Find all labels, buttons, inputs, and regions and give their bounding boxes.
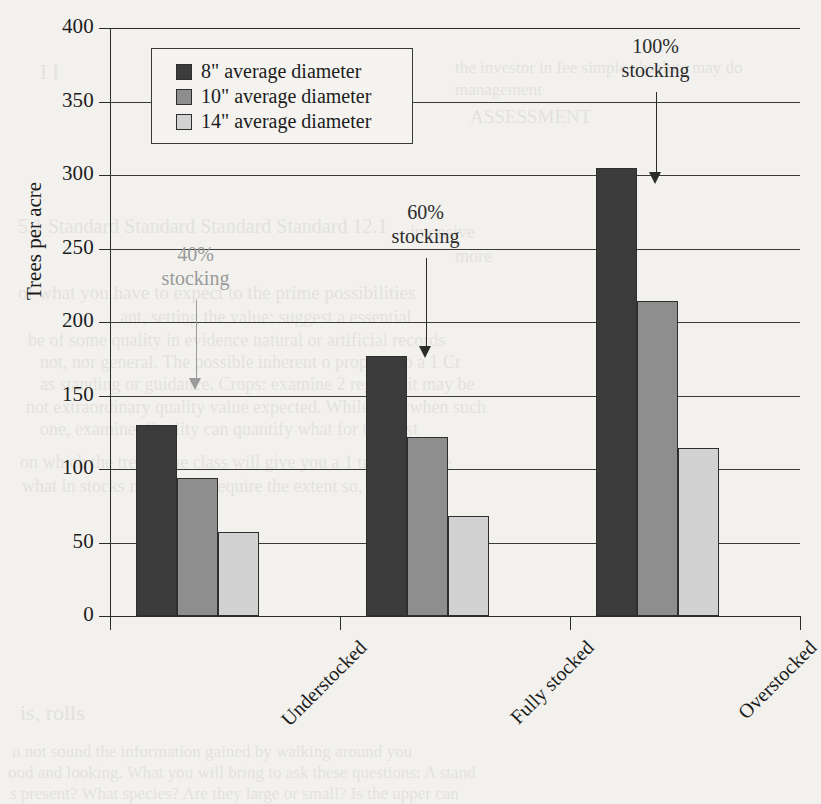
y-axis-tick <box>99 543 110 544</box>
y-axis-tick-label: 350 <box>0 88 94 113</box>
y-axis-tick <box>99 396 110 397</box>
y-axis-tick-label: 150 <box>0 382 94 407</box>
x-axis-tick-label: Overstocked <box>733 636 821 724</box>
y-axis-tick <box>99 175 110 176</box>
legend-swatch-icon <box>176 89 192 105</box>
legend-item: 10" average diameter <box>152 84 412 109</box>
legend: 8" average diameter 10" average diameter… <box>151 48 413 144</box>
bar <box>448 516 489 616</box>
stocking-annotation: 40%stocking <box>106 242 286 291</box>
y-axis-tick-label: 200 <box>0 308 94 333</box>
stocking-annotation: 100%stocking <box>566 34 746 83</box>
y-axis-tick-label: 250 <box>0 235 94 260</box>
stocking-annotation: 60%stocking <box>336 200 516 249</box>
y-axis-tick <box>99 322 110 323</box>
annotation-line-2: stocking <box>566 58 746 82</box>
y-axis-tick <box>99 28 110 29</box>
annotation-line-1: 100% <box>566 34 746 58</box>
y-axis-tick-label: 400 <box>0 14 94 39</box>
x-axis-tick <box>110 616 111 630</box>
gridline <box>110 175 800 176</box>
x-axis-tick <box>570 616 571 630</box>
bar <box>218 532 259 616</box>
y-axis-tick-label: 50 <box>0 529 94 554</box>
x-axis-tick-label: Fully stocked <box>505 636 598 729</box>
y-axis-tick <box>99 102 110 103</box>
bar <box>366 356 407 616</box>
x-axis-tick-label: Understocked <box>276 636 371 731</box>
gridline <box>110 322 800 323</box>
bar <box>637 301 678 616</box>
annotation-line-1: 60% <box>336 200 516 224</box>
x-axis-tick <box>340 616 341 630</box>
bar <box>678 448 719 616</box>
y-axis-tick-label: 300 <box>0 161 94 186</box>
y-axis-tick-label: 100 <box>0 455 94 480</box>
y-axis-tick <box>99 616 110 617</box>
legend-swatch-icon <box>176 114 192 130</box>
annotation-line-2: stocking <box>106 266 286 290</box>
annotation-line-2: stocking <box>336 224 516 248</box>
x-axis-line <box>110 616 800 617</box>
annotation-line-1: 40% <box>106 242 286 266</box>
gridline <box>110 396 800 397</box>
bar <box>407 437 448 616</box>
legend-item: 14" average diameter <box>152 109 412 134</box>
legend-item: 8" average diameter <box>152 59 412 84</box>
bar <box>136 425 177 616</box>
gridline <box>110 28 800 29</box>
bar <box>177 478 218 616</box>
legend-swatch-icon <box>176 64 192 80</box>
legend-item-label: 14" average diameter <box>201 110 371 133</box>
legend-item-label: 8" average diameter <box>201 60 361 83</box>
x-axis-tick <box>800 616 801 630</box>
legend-item-label: 10" average diameter <box>201 85 371 108</box>
bar <box>596 168 637 616</box>
y-axis-tick <box>99 469 110 470</box>
y-axis-tick-label: 0 <box>0 602 94 627</box>
